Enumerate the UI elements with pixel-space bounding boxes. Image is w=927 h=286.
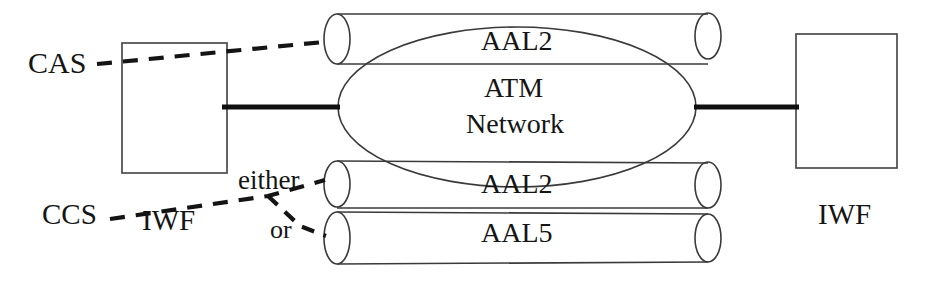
pipe-cap-left-icon [324,161,350,207]
diagram-canvas: CAS CCS IWF IWF either or AAL2 ATM Netwo… [0,0,927,286]
atm-network-line2: Network [466,110,564,138]
pipe-aal2-top-label: AAL2 [481,27,553,55]
either-label: either [238,167,299,194]
pipe-aal5-label: AAL5 [481,219,553,247]
right-iwf-label: IWF [818,200,871,229]
pipe-cap-left-icon [324,14,350,64]
pipe-cap-left-icon [324,212,350,264]
left-iwf-label: IWF [142,206,195,235]
right-iwf-box[interactable] [796,34,897,168]
atm-network-line1: ATM [484,74,543,102]
diagram-graphics [0,0,927,286]
cas-label: CAS [28,48,86,78]
ccs-label: CCS [42,200,97,229]
pipe-cap-right-icon [695,13,721,59]
pipe-cap-right-icon [695,162,721,208]
or-label: or [270,217,292,243]
pipe-aal2-mid-label: AAL2 [481,170,553,198]
left-iwf-box[interactable] [122,43,227,173]
pipe-cap-right-icon [695,214,721,262]
